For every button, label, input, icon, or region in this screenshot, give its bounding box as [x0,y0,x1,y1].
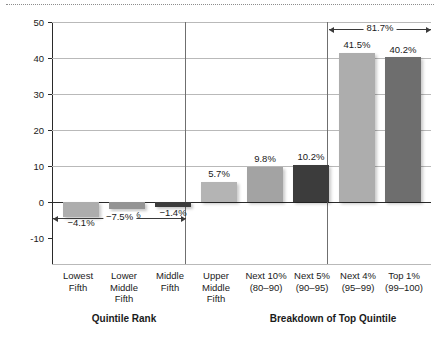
y-tick-label-40: 40 [2,54,44,64]
category-label-line-2: Middle [101,282,147,294]
bracket-label-top-quintile-total: 81.7% [364,23,397,33]
annotation-bracket-quintile-total: −7.5% [53,214,186,223]
category-label-middle-fifth: Middle Fifth [147,270,193,293]
category-label-line-2: Fifth [55,282,101,294]
y-tick-label-0: 0 [2,198,44,208]
y-tick-label-50: 50 [2,18,44,28]
category-label-line-2: (99–100) [374,282,434,294]
group-title-quintile-rank: Quintile Rank [55,313,193,324]
category-label-line-3: Fifth [101,293,147,305]
bar-top-1-percent[interactable] [385,57,421,202]
y-tick-label-30: 30 [2,90,44,100]
category-label-line-1: Upper [193,270,239,282]
category-label-upper-middle-fifth: Upper Middle Fifth [193,270,239,305]
annotation-bracket-top-quintile-total: 81.7% [329,25,431,34]
top-divider-rule [6,4,434,5]
panel-separator-top-quintile [327,22,328,264]
category-label-line-2: Middle [193,282,239,294]
bar-value-label-upper-middle-fifth: 5.7% [196,169,242,179]
bar-upper-middle-fifth[interactable] [201,182,237,203]
panel-separator-quintiles [185,22,186,264]
bar-lower-middle-fifth[interactable] [109,202,145,209]
gridline-neg10 [52,264,431,265]
y-tick-label-10: 10 [2,162,44,172]
bracket-arrow-left [329,27,334,33]
category-label-line-1: Lower [101,270,147,282]
group-title-breakdown-of-top-quintile: Breakdown of Top Quintile [232,313,434,324]
bar-next-4-percent[interactable] [339,53,375,202]
chart-plot-area: −4.1% −2.0% −1.4% 5.7% 9.8% 10.2% 41.5% … [52,22,431,264]
category-label-line-1: Top 1% [374,270,434,282]
y-tick-label-neg10: -10 [2,234,44,244]
bracket-arrow-right [181,216,186,222]
bracket-arrow-left [53,216,58,222]
bar-value-label-next-4-percent: 41.5% [334,40,380,50]
bar-value-label-top-1-percent: 40.2% [380,45,426,55]
category-label-line-1: Middle [147,270,193,282]
bar-value-label-next-10-percent: 9.8% [242,154,288,164]
y-tick-label-20: 20 [2,126,44,136]
bar-next-10-percent[interactable] [247,167,283,202]
category-label-top-1-percent: Top 1% (99–100) [374,270,434,293]
category-label-line-2: Fifth [147,282,193,294]
bracket-label-quintile-total: −7.5% [103,212,136,222]
category-label-lowest-fifth: Lowest Fifth [55,270,101,293]
category-label-line-1: Lowest [55,270,101,282]
category-label-line-3: Fifth [193,293,239,305]
bracket-arrow-right [426,27,431,33]
category-label-lower-middle-fifth: Lower Middle Fifth [101,270,147,305]
bar-next-5-percent[interactable] [293,165,329,202]
bar-value-label-next-5-percent: 10.2% [288,152,334,162]
